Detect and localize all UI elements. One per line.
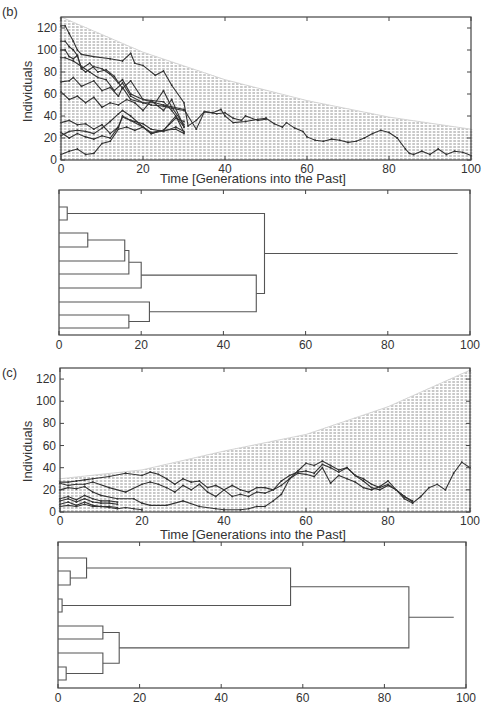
y-tick-label: 120 <box>36 372 56 386</box>
y-tick-label: 40 <box>43 461 57 475</box>
x-tick-label: 0 <box>56 338 63 352</box>
x-tick-label: 100 <box>456 691 476 705</box>
lineage-plot-b: 020406080100020406080100120 <box>37 17 481 176</box>
dendrogram-link <box>67 214 264 294</box>
y-tick-label: 120 <box>37 21 57 35</box>
x-tick-label: 80 <box>382 162 396 176</box>
dendrogram-link <box>58 626 103 639</box>
dendrogram-link <box>59 240 125 261</box>
x-tick-label: 0 <box>55 691 62 705</box>
x-tick-label: 60 <box>299 514 313 528</box>
y-tick-label: 80 <box>43 416 57 430</box>
dendrogram-c: 020406080100 <box>55 542 477 705</box>
dendrogram-link <box>119 587 409 648</box>
x-tick-label: 60 <box>299 338 313 352</box>
x-tick-label: 20 <box>135 338 149 352</box>
x-tick-label: 40 <box>218 162 232 176</box>
x-tick-label: 20 <box>135 514 149 528</box>
lineage-plot-c: 020406080100020406080100120 <box>36 368 480 528</box>
x-tick-label: 0 <box>57 514 64 528</box>
x-tick-label: 20 <box>133 691 147 705</box>
y-tick-label: 100 <box>36 394 56 408</box>
y-tick-label: 40 <box>44 109 58 123</box>
x-tick-label: 0 <box>58 162 65 176</box>
x-tick-label: 80 <box>381 514 395 528</box>
x-tick-label: 60 <box>296 691 310 705</box>
x-tick-label: 100 <box>460 514 480 528</box>
dendrogram-frame <box>58 542 466 688</box>
dendrogram-link <box>103 633 119 664</box>
dendrogram-link <box>58 599 62 612</box>
dendrogram-link <box>58 571 70 585</box>
dendrogram-link <box>59 315 129 328</box>
y-tick-label: 0 <box>50 153 57 167</box>
y-tick-label: 20 <box>43 483 57 497</box>
x-tick-label: 80 <box>381 338 395 352</box>
dendrogram-link <box>58 667 66 680</box>
dendrogram-link <box>59 207 67 220</box>
x-tick-label: 40 <box>217 338 231 352</box>
y-tick-label: 60 <box>44 87 58 101</box>
x-tick-label: 60 <box>300 162 314 176</box>
dendrogram-link <box>59 251 129 275</box>
dendrogram-link <box>59 233 88 247</box>
y-tick-label: 60 <box>43 439 57 453</box>
dendrogram-link <box>58 558 87 578</box>
x-tick-label: 40 <box>217 514 231 528</box>
dendrogram-link <box>141 275 256 312</box>
y-tick-label: 100 <box>37 43 57 57</box>
dendrogram-link <box>58 653 103 674</box>
x-tick-label: 100 <box>461 162 481 176</box>
dendrogram-b: 020406080100 <box>56 190 481 352</box>
x-tick-label: 20 <box>136 162 150 176</box>
dendrogram-link <box>62 568 290 606</box>
dendrogram-link <box>59 302 149 322</box>
y-tick-label: 80 <box>44 65 58 79</box>
x-tick-label: 80 <box>378 691 392 705</box>
y-tick-label: 0 <box>49 505 56 519</box>
y-tick-label: 20 <box>44 131 58 145</box>
x-tick-label: 100 <box>460 338 480 352</box>
x-tick-label: 40 <box>215 691 229 705</box>
lineage-line <box>61 92 184 127</box>
figure-canvas: 020406080100020406080100120 020406080100… <box>0 0 493 712</box>
